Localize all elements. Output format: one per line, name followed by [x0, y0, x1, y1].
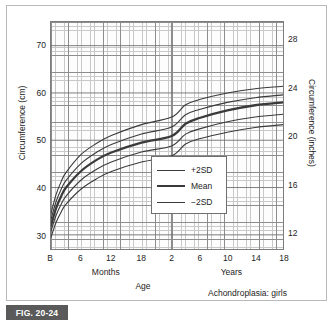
- y-tick-in-20: 20: [288, 131, 297, 141]
- legend-label: Mean: [191, 182, 212, 191]
- x-axis-title: Age: [118, 281, 168, 291]
- x-tick-B: B: [47, 253, 53, 263]
- x-tick-6: 6: [197, 253, 202, 263]
- y-axis-left-title: Circumference (cm): [17, 63, 27, 183]
- legend-label: +2SD: [191, 166, 213, 175]
- legend-item-+2SD: +2SD: [157, 162, 222, 178]
- chart-plot-area: [50, 21, 284, 250]
- x-tick-18: 18: [137, 253, 146, 263]
- y-tick-cm-50: 50: [37, 135, 46, 145]
- y-tick-cm-40: 40: [37, 183, 46, 193]
- y-tick-in-24: 24: [288, 83, 297, 93]
- x-group-label-years: Years: [201, 267, 261, 277]
- legend-item--2SD: −2SD: [157, 194, 222, 210]
- x-axis-ticks: B6121826101418: [50, 253, 284, 265]
- y-axis-right-title: Circumference (inches): [307, 63, 317, 183]
- y-tick-in-28: 28: [288, 34, 297, 44]
- x-tick-2: 2: [169, 253, 174, 263]
- y-tick-cm-60: 60: [37, 88, 46, 98]
- legend-line-icon: [157, 185, 185, 187]
- y-tick-cm-70: 70: [37, 40, 46, 50]
- chart-curves-layer: [51, 22, 283, 249]
- x-tick-12: 12: [106, 253, 115, 263]
- legend-item-Mean: Mean: [157, 178, 222, 194]
- x-tick-14: 14: [251, 253, 260, 263]
- legend-label: −2SD: [191, 198, 213, 207]
- condition-label: Achondroplasia: girls: [208, 288, 287, 298]
- x-tick-18: 18: [279, 253, 288, 263]
- x-tick-10: 10: [223, 253, 232, 263]
- x-tick-6: 6: [78, 253, 83, 263]
- figure-number-banner: FIG. 20-24: [6, 305, 68, 320]
- chart-legend: +2SDMean−2SD: [151, 156, 227, 214]
- figure-container: 3040506070 1216202428 B6121826101418 Cir…: [0, 0, 334, 326]
- legend-line-icon: [157, 170, 185, 171]
- x-group-label-months: Months: [76, 267, 136, 277]
- y-tick-cm-30: 30: [37, 231, 46, 241]
- y-tick-in-12: 12: [288, 228, 297, 238]
- y-tick-in-16: 16: [288, 180, 297, 190]
- legend-line-icon: [157, 202, 185, 203]
